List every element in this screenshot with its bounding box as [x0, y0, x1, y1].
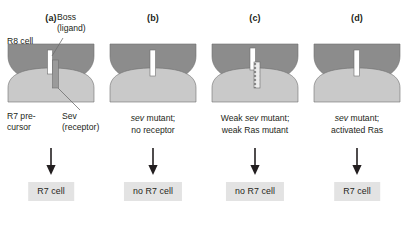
label-boss-ligand: Boss (ligand)	[57, 12, 86, 35]
sev-line-1: Sev	[62, 111, 77, 121]
caption-line-1: Weak sev mutant;	[221, 113, 290, 123]
figure-canvas: (a) R7 cell (b) se	[0, 0, 409, 225]
arrow-d	[306, 148, 408, 178]
sev-line-2: (receptor)	[62, 122, 99, 132]
outcome-box-c: no R7 cell	[226, 182, 284, 201]
cell-diagram-a	[0, 42, 102, 102]
boss-line-2: (ligand)	[57, 23, 86, 33]
panel-caption-d: sev mutant; activated Ras	[306, 113, 408, 136]
boss-ligand-bar	[150, 50, 156, 76]
panel-b: (b) sev mutant; no receptor no R7 cell	[102, 0, 204, 225]
panel-caption-b: sev mutant; no receptor	[102, 113, 204, 136]
caption-line-2: weak Ras mutant	[222, 125, 288, 135]
cell-diagram-b	[102, 42, 204, 102]
panel-label-a: (a)	[0, 13, 102, 23]
sev-receptor-bar	[53, 60, 59, 88]
panel-d: (d) sev mutant; activated Ras R7 cell	[306, 0, 408, 225]
caption-line-2: no receptor	[131, 125, 174, 135]
weak-sev-receptor-bar	[254, 62, 260, 88]
label-r8-cell: R8 cell	[7, 36, 33, 47]
panel-label-b: (b)	[102, 13, 204, 23]
caption-line-1: sev mutant;	[131, 113, 175, 123]
panel-c: (c) Weak sev mutant; weak Ras mutant	[204, 0, 306, 225]
outcome-box-b: no R7 cell	[124, 182, 182, 201]
gene-name-sev: sev	[335, 113, 348, 123]
outcome-box-d: R7 cell	[334, 182, 380, 201]
panel-label-c: (c)	[204, 13, 306, 23]
label-r7-precursor: R7 pre- cursor	[7, 111, 36, 134]
boss-line-1: Boss	[57, 12, 76, 22]
outcome-box-a: R7 cell	[28, 182, 74, 201]
cell-diagram-d	[306, 42, 408, 102]
r7-precursor-line-2: cursor	[7, 122, 31, 132]
cell-diagram-c	[204, 42, 306, 102]
boss-ligand-bar	[354, 50, 360, 76]
gene-name-sev: sev	[245, 113, 258, 123]
arrow-a	[0, 148, 102, 178]
r7-precursor-line-1: R7 pre-	[7, 111, 36, 121]
boss-ligand-bar	[48, 50, 53, 74]
arrow-b	[102, 148, 204, 178]
label-sev-receptor: Sev (receptor)	[62, 111, 99, 134]
panel-caption-c: Weak sev mutant; weak Ras mutant	[204, 113, 306, 136]
gene-name-sev: sev	[131, 113, 144, 123]
panel-label-d: (d)	[306, 13, 408, 23]
caption-line-1: sev mutant;	[335, 113, 379, 123]
arrow-c	[204, 148, 306, 178]
caption-line-2: activated Ras	[331, 125, 383, 135]
